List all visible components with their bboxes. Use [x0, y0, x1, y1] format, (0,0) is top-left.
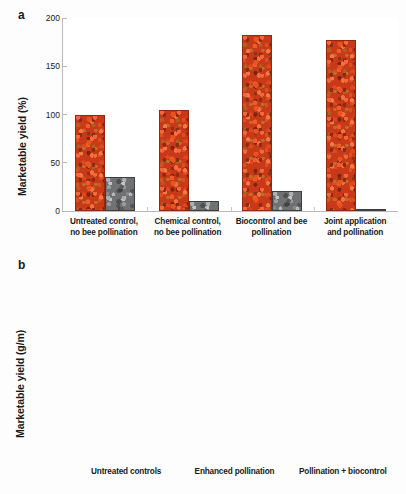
bar-red-yield [242, 35, 272, 211]
x-axis-category-label: Enhanced pollination [180, 466, 288, 477]
bar-group [147, 18, 231, 211]
figure-container: a Marketable yield (%) 050100150200 Untr… [0, 0, 406, 494]
bar-grey-measure [105, 177, 135, 211]
y-axis-tick: 200 [46, 13, 63, 23]
x-axis-category-label: Chemical control, no bee pollination [146, 216, 230, 238]
x-axis-category-label: Joint application and pollination [313, 216, 397, 238]
panel-b: b Marketable yield (g/m) 020040060080010… [0, 252, 406, 494]
bar-group [314, 18, 398, 211]
bar-red-yield [75, 115, 105, 212]
y-axis-tick: 0 [55, 206, 63, 216]
panel-a-letter: a [18, 8, 25, 22]
bar-group [231, 18, 315, 211]
y-axis-tick-label: 150 [46, 61, 63, 71]
panel-b-x-labels: Untreated controlsEnhanced pollinationPo… [72, 466, 397, 477]
bar-group [63, 18, 147, 211]
y-axis-tick-label: 50 [51, 158, 63, 168]
x-axis-category-label: Biocontrol and bee pollination [230, 216, 314, 238]
bar-grey-measure [189, 201, 219, 211]
x-axis-category-label: Pollination + biocontrol [289, 466, 397, 477]
x-axis-category-label: Untreated control, no bee pollination [62, 216, 146, 238]
panel-a-plot-area: 050100150200 [62, 18, 398, 212]
y-axis-tick-label: 100 [46, 110, 63, 120]
panel-b-letter: b [18, 258, 25, 272]
y-axis-tick: 100 [46, 110, 63, 120]
bar-grey-measure [272, 191, 302, 211]
y-axis-tick-label: 200 [46, 13, 63, 23]
panel-a: a Marketable yield (%) 050100150200 Untr… [0, 0, 406, 252]
bar-pair [314, 18, 398, 211]
panel-a-y-axis-title: Marketable yield (%) [16, 97, 28, 196]
bar-pair [147, 18, 231, 211]
bar-pair [63, 18, 147, 211]
bar-red-yield [159, 110, 189, 211]
x-axis-category-label: Untreated controls [72, 466, 180, 477]
panel-b-y-axis-title: Marketable yield (g/m) [14, 330, 26, 438]
bar-grey-measure [356, 209, 386, 211]
panel-a-x-labels: Untreated control, no bee pollinationChe… [62, 216, 397, 238]
bar-red-yield [326, 40, 356, 211]
bar-pair [231, 18, 315, 211]
y-axis-tick-label: 0 [55, 206, 63, 216]
y-axis-tick: 150 [46, 61, 63, 71]
y-axis-tick: 50 [51, 158, 63, 168]
